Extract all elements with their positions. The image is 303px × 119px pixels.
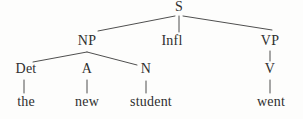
node-np: NP: [78, 33, 96, 49]
leaf-student: student: [130, 94, 172, 110]
node-s: S: [175, 0, 183, 15]
node-v: V: [265, 61, 275, 77]
leaf-new: new: [75, 94, 99, 110]
leaf-went: went: [257, 94, 285, 110]
node-infl: Infl: [161, 33, 182, 49]
syntax-tree-diagram: S NP Infl VP Det A N V the new student w…: [0, 0, 303, 119]
edge-np-n: [87, 52, 137, 65]
leaf-the: the: [17, 94, 35, 110]
node-det: Det: [16, 61, 37, 77]
edge-s-np: [98, 16, 175, 31]
edge-np-det: [33, 52, 87, 62]
edge-s-vp: [183, 16, 272, 30]
node-vp: VP: [261, 33, 279, 49]
node-a: A: [82, 61, 92, 77]
node-n: N: [141, 61, 151, 77]
